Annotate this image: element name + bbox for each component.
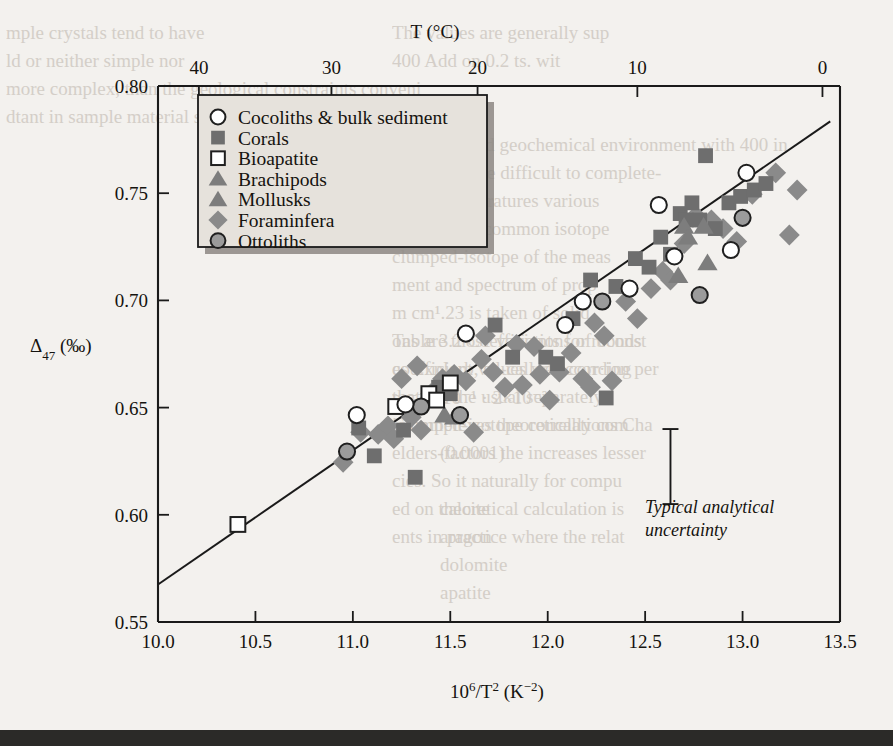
legend-item-label: Foraminfera [238, 210, 335, 231]
top-tick-label: 0 [818, 57, 828, 78]
marker-filled-diamond [602, 370, 623, 391]
uncertainty-note-line1: Typical analytical [645, 497, 774, 517]
marker-filled-square [367, 448, 382, 463]
marker-gray-circle [692, 287, 708, 303]
marker-filled-square [759, 176, 774, 191]
legend-item-label: Cocoliths & bulk sediment [238, 107, 448, 128]
marker-gray-circle [413, 398, 429, 414]
top-tick-label: 30 [322, 57, 341, 78]
x-tick-label: 11.0 [337, 631, 370, 652]
x-tick-label: 11.5 [434, 631, 467, 652]
chart-svg: 403020100 10.010.511.011.512.012.513.013… [0, 0, 893, 746]
marker-open-square [230, 517, 245, 532]
marker-open-square [443, 376, 458, 391]
marker-open-circle [575, 293, 591, 309]
top-tick-label: 40 [189, 57, 208, 78]
bottom-axis-ticks: 10.010.511.011.512.012.513.013.5 [141, 611, 856, 652]
x-tick-label: 10.5 [239, 631, 272, 652]
marker-filled-diamond [787, 180, 808, 201]
marker-open-circle [666, 248, 682, 264]
marker-filled-diamond [391, 368, 412, 389]
marker-filled-square [488, 318, 503, 333]
marker-filled-square [684, 195, 699, 210]
legend-item-label: Brachipods [238, 169, 327, 190]
marker-open-circle [557, 317, 573, 333]
figure-page: mple crystals tend to haveThe values are… [0, 0, 893, 746]
marker-filled-triangle [697, 254, 717, 271]
uncertainty-note-line2: uncertainty [645, 520, 727, 540]
marker-filled-square [583, 273, 598, 288]
marker-open-circle [738, 165, 754, 181]
legend-item-label: Corals [238, 128, 289, 149]
marker-filled-square [599, 391, 614, 406]
top-tick-label: 10 [628, 57, 647, 78]
marker-open-circle [349, 407, 365, 423]
legend-item-cocoliths-bulk-sediment[interactable]: Cocoliths & bulk sediment [211, 107, 449, 128]
y-tick-label: 0.55 [115, 612, 148, 633]
scatter-figure: 403020100 10.010.511.011.512.012.513.013… [0, 0, 893, 746]
x-tick-label: 13.0 [726, 631, 759, 652]
marker-gray-circle [452, 407, 468, 423]
marker-gray-circle [594, 293, 610, 309]
legend-item-label: Mollusks [238, 189, 311, 210]
marker-open-circle [458, 326, 474, 342]
marker-filled-square [642, 260, 657, 275]
top-tick-label: 20 [468, 57, 487, 78]
top-axis-title: T (°C) [411, 21, 460, 43]
legend: Cocoliths & bulk sedimentCoralsBioapatit… [198, 95, 494, 254]
marker-open-circle [651, 197, 667, 213]
marker-filled-diamond [512, 375, 533, 396]
x-tick-label: 13.5 [823, 631, 856, 652]
marker-filled-diamond [494, 377, 515, 398]
marker-gray-circle [339, 443, 355, 459]
top-axis-ticks: 403020100 [189, 57, 827, 97]
legend-item-label: Bioapatite [238, 148, 318, 169]
x-tick-label: 12.0 [531, 631, 564, 652]
marker-filled-square [628, 251, 643, 266]
y-tick-label: 0.65 [115, 398, 148, 419]
x-tick-label: 12.5 [629, 631, 662, 652]
marker-filled-diamond [539, 390, 560, 411]
marker-filled-diamond [530, 364, 551, 385]
x-tick-label: 10.0 [141, 631, 174, 652]
marker-filled-square [408, 470, 423, 485]
marker-open-square [429, 393, 444, 408]
marker-filled-diamond [641, 278, 662, 299]
marker-filled-square [733, 189, 748, 204]
marker-filled-square [550, 356, 565, 371]
marker-filled-square [505, 350, 520, 365]
y-axis-title-unit: (‰) [55, 335, 91, 357]
marker-filled-diamond [627, 308, 648, 329]
marker-filled-square [396, 423, 411, 438]
y-tick-label: 0.80 [115, 76, 148, 97]
marker-filled-square [698, 148, 713, 163]
uncertainty-error-bar [662, 429, 678, 504]
marker-open-circle [621, 281, 637, 297]
marker-filled-square [653, 230, 668, 245]
page-bottom-strip [0, 730, 893, 746]
marker-filled-square [211, 131, 225, 145]
marker-gray-circle [735, 210, 751, 226]
marker-filled-diamond [407, 355, 428, 376]
y-axis-title-delta: Δ [30, 335, 42, 356]
marker-open-circle [723, 242, 739, 258]
legend-item-label: Ottoliths [238, 231, 306, 252]
x-axis-title: 106/T2 (K−2) [450, 679, 544, 704]
marker-filled-diamond [463, 422, 484, 443]
y-axis-title: Δ47 (‰) [30, 335, 92, 363]
marker-open-circle [211, 110, 226, 125]
marker-open-circle [397, 396, 413, 412]
marker-filled-diamond [779, 225, 800, 246]
y-tick-label: 0.60 [115, 505, 148, 526]
y-tick-label: 0.75 [115, 183, 148, 204]
y-tick-label: 0.70 [115, 290, 148, 311]
marker-gray-circle [211, 233, 226, 248]
marker-open-square [211, 151, 225, 165]
left-axis-ticks: 0.550.600.650.700.750.80 [115, 76, 169, 633]
y-axis-title-subscript: 47 [42, 348, 56, 363]
